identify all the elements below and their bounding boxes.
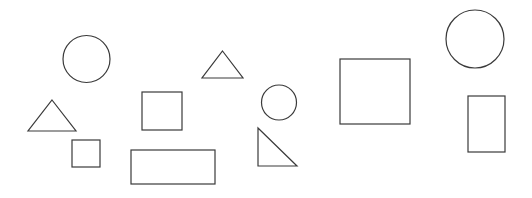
- shape-canvas: CircleTriangleSmall squareMedium squareW…: [0, 0, 532, 198]
- canvas-background: [0, 0, 532, 198]
- shape-diagram: CircleTriangleSmall squareMedium squareW…: [0, 0, 532, 198]
